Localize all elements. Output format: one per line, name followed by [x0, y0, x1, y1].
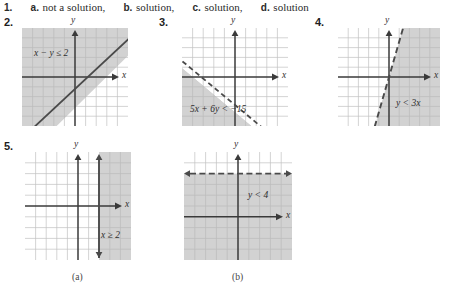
- caption-a: (a): [72, 272, 83, 282]
- graph-problem-4: y x y < 3x: [338, 28, 440, 126]
- graph-3-y-axis-label: y: [231, 15, 235, 25]
- graph-4-x-axis-label: x: [434, 70, 438, 80]
- graph-5b-y-axis-label: y: [234, 139, 238, 149]
- answer-part-b-letter: b.: [123, 2, 132, 13]
- answer-line-1: 1. a. not a solution, b. solution, c. so…: [4, 0, 455, 15]
- graph-5b-svg: [184, 152, 292, 260]
- graph-5a-y-axis-label: y: [74, 139, 78, 149]
- graph-4-svg: [338, 28, 440, 126]
- answer-part-d-letter: d.: [261, 2, 270, 13]
- graph-2-inequality-label: x − y ≤ 2: [34, 48, 68, 58]
- graph-problem-5b: y x y < 4: [184, 152, 292, 260]
- graph-4-y-axis-label: y: [385, 15, 389, 25]
- answer-part-a-letter: a.: [31, 2, 39, 13]
- graph-3-x-axis-label: x: [282, 70, 286, 80]
- answer-part-a-text: not a solution,: [43, 1, 106, 13]
- graph-2-y-axis-label: y: [71, 15, 75, 25]
- answer-part-b-text: solution,: [136, 1, 174, 13]
- answer-key-page: 1. a. not a solution, b. solution, c. so…: [0, 0, 455, 294]
- graph-5b-x-axis-label: x: [286, 210, 290, 220]
- graph-5a-x-axis-label: x: [125, 199, 129, 209]
- graph-5b-inequality-label: y < 4: [248, 190, 268, 200]
- graph-2-svg: [22, 28, 128, 126]
- graph-problem-2: y x x − y ≤ 2: [22, 28, 128, 126]
- graph-3-inequality-label: 5x + 6y < −15: [190, 104, 246, 114]
- graph-5a-inequality-label: x ≥ 2: [101, 230, 120, 240]
- problem-number-4: 4.: [315, 16, 324, 28]
- graph-problem-3: y x 5x + 6y < −15: [182, 28, 288, 126]
- graph-5a-svg: [25, 152, 131, 260]
- graph-4-inequality-label: y < 3x: [396, 98, 420, 108]
- problem-number-5: 5.: [4, 140, 13, 152]
- answer-part-d-text: solution: [273, 1, 308, 13]
- problem-number-2: 2.: [4, 16, 13, 28]
- graph-2-x-axis-label: x: [122, 70, 126, 80]
- problem-number-1: 1.: [4, 2, 12, 13]
- problem-number-3: 3.: [159, 16, 168, 28]
- answer-part-c-letter: c.: [192, 2, 200, 13]
- answer-part-c-text: solution,: [204, 1, 242, 13]
- caption-b: (b): [232, 272, 243, 282]
- graph-problem-5a: y x x ≥ 2: [25, 152, 131, 260]
